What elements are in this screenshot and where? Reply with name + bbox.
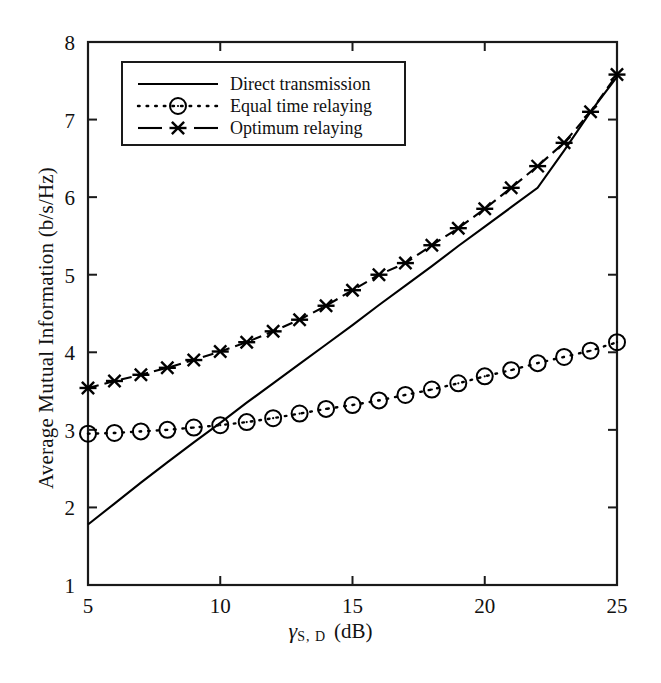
- y-tick-label: 6: [65, 186, 76, 210]
- y-tick-label: 1: [65, 574, 76, 598]
- x-tick-label: 25: [607, 594, 628, 618]
- x-tick-label: 15: [342, 594, 363, 618]
- x-axis-label-unit: (dB): [334, 619, 373, 643]
- y-tick-label: 3: [65, 419, 76, 443]
- x-axis-label: γS, D(dB): [0, 618, 661, 645]
- chart-legend: Direct transmissionEqual time relayingOp…: [122, 62, 405, 145]
- x-tick-labels: 510152025: [83, 594, 628, 618]
- legend-label: Optimum relaying: [230, 118, 362, 138]
- chart-canvas: 510152025 12345678 Direct transmissionEq…: [0, 0, 661, 683]
- x-tick-label: 5: [83, 594, 94, 618]
- x-axis-label-subscript: S, D: [297, 629, 326, 644]
- x-tick-label: 20: [474, 594, 495, 618]
- x-axis-label-symbol: γ: [288, 618, 297, 643]
- figure-container: 510152025 12345678 Direct transmissionEq…: [0, 0, 661, 683]
- y-tick-label: 5: [65, 264, 76, 288]
- y-tick-label: 2: [65, 496, 76, 520]
- series-equal-time-relaying: [80, 334, 625, 442]
- y-tick-label: 7: [65, 109, 76, 133]
- x-tick-label: 10: [210, 594, 231, 618]
- y-tick-label: 8: [65, 31, 76, 55]
- legend-label: Equal time relaying: [230, 96, 372, 116]
- y-tick-label: 4: [65, 341, 76, 365]
- y-tick-labels: 12345678: [65, 31, 76, 598]
- y-axis-label: Average Mutual Information (b/s/Hz): [34, 48, 64, 608]
- legend-label: Direct transmission: [230, 74, 370, 94]
